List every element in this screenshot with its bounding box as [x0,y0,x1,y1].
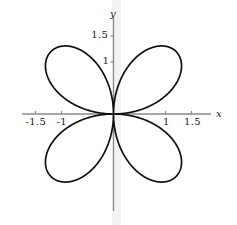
y-axis-label: y [110,8,116,19]
x-tick-label-1: 1 [163,116,170,127]
y-tick-label-1p5: 1.5 [91,29,108,40]
rose-curve-plot [0,0,237,225]
y-tick-label-1: 1 [102,55,109,66]
x-axis-label: x [216,108,222,119]
plot-figure: -1.5-111.51.51 x y [0,0,237,225]
x-tick-label-neg1p5: -1.5 [26,116,47,127]
x-tick-label-1p5: 1.5 [184,116,201,127]
x-tick-label-neg1: -1 [57,116,68,127]
